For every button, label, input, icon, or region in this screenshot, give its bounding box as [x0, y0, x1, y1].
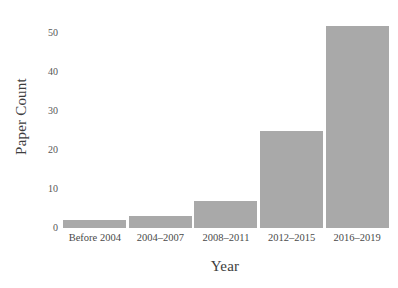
y-tick-label: 50 [34, 28, 58, 38]
bar[interactable] [129, 216, 192, 228]
x-tick-label: 2008–2011 [193, 231, 259, 245]
plot-area [62, 14, 390, 228]
bar-slot [259, 14, 325, 228]
x-tick-label: 2016–2019 [324, 231, 390, 245]
y-tick-label: 30 [34, 106, 58, 116]
y-axis-title-text: Paper Count [13, 78, 30, 155]
bar-slot [62, 14, 128, 228]
bar[interactable] [326, 26, 389, 228]
bar[interactable] [194, 201, 257, 228]
y-tick-label: 20 [34, 145, 58, 155]
x-axis-title: Year [60, 258, 390, 275]
y-tick-label: 10 [34, 184, 58, 194]
x-tick-label: 2004–2007 [128, 231, 194, 245]
bar-slot [324, 14, 390, 228]
x-tick-label: 2012–2015 [259, 231, 325, 245]
bar[interactable] [63, 220, 126, 228]
x-tick-label: Before 2004 [62, 231, 128, 245]
bar[interactable] [260, 131, 323, 228]
y-tick-label: 0 [34, 223, 58, 233]
bar-slot [193, 14, 259, 228]
x-axis-tick-labels: Before 20042004–20072008–20112012–201520… [62, 231, 390, 249]
bar-slot [128, 14, 194, 228]
bar-chart-figure: Paper Count 01020304050 Before 20042004–… [0, 0, 398, 288]
y-tick-label: 40 [34, 67, 58, 77]
y-axis-title: Paper Count [10, 0, 32, 232]
y-axis-tick-labels: 01020304050 [34, 0, 58, 288]
